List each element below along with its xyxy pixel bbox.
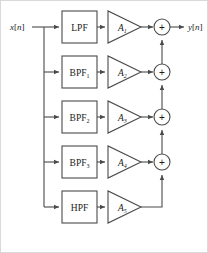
output-label: y[n] — [187, 22, 203, 32]
filter-block-1-label: LPF — [71, 23, 87, 33]
filter-bank-diagram: x[n] LPF A1 BPF1 A2 BPF2 — [1, 1, 208, 253]
adder-node-3-symbol: + — [159, 112, 165, 123]
adder-node-1-symbol: + — [159, 22, 165, 33]
input-label: x[n] — [9, 22, 25, 32]
adder-node-4-symbol: + — [159, 157, 165, 168]
branch-5-feedback-wire — [141, 175, 162, 207]
filter-block-5-label: HPF — [71, 203, 88, 213]
adder-node-2-symbol: + — [159, 67, 165, 78]
diagram-canvas: x[n] LPF A1 BPF1 A2 BPF2 — [0, 0, 208, 253]
